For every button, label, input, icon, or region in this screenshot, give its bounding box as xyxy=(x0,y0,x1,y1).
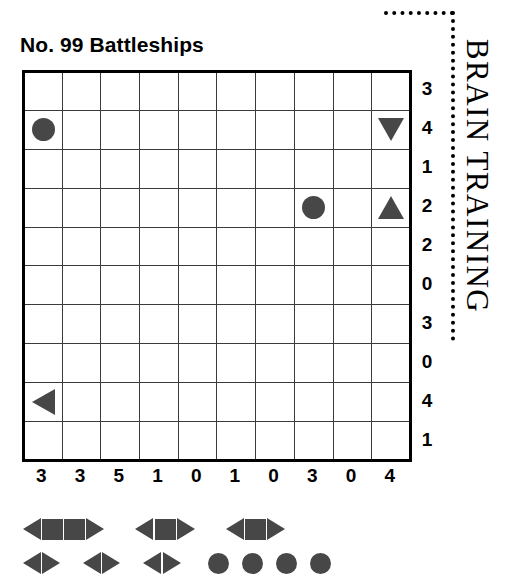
grid-cell[interactable] xyxy=(101,305,140,344)
grid-cell[interactable] xyxy=(101,266,140,305)
grid-cell[interactable] xyxy=(256,422,295,461)
grid-cell[interactable] xyxy=(178,344,217,383)
grid-cell[interactable] xyxy=(256,188,295,227)
grid-cell[interactable] xyxy=(217,72,256,111)
grid-cell[interactable] xyxy=(333,266,372,305)
grid-cell[interactable] xyxy=(217,266,256,305)
grid-cell[interactable] xyxy=(333,305,372,344)
grid-cell[interactable] xyxy=(101,227,140,266)
grid-cell[interactable] xyxy=(24,188,63,227)
grid-cell[interactable] xyxy=(217,149,256,188)
grid-cell[interactable] xyxy=(217,110,256,149)
grid-cell[interactable] xyxy=(294,149,333,188)
grid-cell[interactable] xyxy=(140,305,179,344)
grid-cell[interactable] xyxy=(140,422,179,461)
grid-cell[interactable] xyxy=(372,422,411,461)
grid-cell[interactable] xyxy=(217,188,256,227)
grid-cell[interactable] xyxy=(294,188,333,227)
grid-cell[interactable] xyxy=(217,383,256,422)
grid-cell[interactable] xyxy=(217,344,256,383)
grid-cell[interactable] xyxy=(62,72,101,111)
grid-cell[interactable] xyxy=(217,227,256,266)
grid-cell[interactable] xyxy=(256,110,295,149)
grid-cell[interactable] xyxy=(62,422,101,461)
grid-cell[interactable] xyxy=(62,149,101,188)
grid-cell[interactable] xyxy=(217,422,256,461)
grid-cell[interactable] xyxy=(178,188,217,227)
grid-cell[interactable] xyxy=(24,305,63,344)
grid-cell[interactable] xyxy=(256,266,295,305)
grid-cell[interactable] xyxy=(24,72,63,111)
grid-cell[interactable] xyxy=(101,188,140,227)
grid-cell[interactable] xyxy=(372,383,411,422)
grid-cell[interactable] xyxy=(333,383,372,422)
grid-cell[interactable] xyxy=(333,188,372,227)
grid-cell[interactable] xyxy=(140,266,179,305)
grid-cell[interactable] xyxy=(178,149,217,188)
grid-cell[interactable] xyxy=(256,72,295,111)
grid-cell[interactable] xyxy=(62,188,101,227)
grid-cell[interactable] xyxy=(62,383,101,422)
grid-cell[interactable] xyxy=(372,266,411,305)
grid-cell[interactable] xyxy=(101,383,140,422)
grid-cell[interactable] xyxy=(294,227,333,266)
grid-cell[interactable] xyxy=(178,110,217,149)
grid-cell[interactable] xyxy=(294,383,333,422)
grid-cell[interactable] xyxy=(24,422,63,461)
grid-cell[interactable] xyxy=(178,422,217,461)
grid-cell[interactable] xyxy=(24,383,63,422)
grid-cell[interactable] xyxy=(62,305,101,344)
grid-cell[interactable] xyxy=(217,305,256,344)
grid-cell[interactable] xyxy=(372,72,411,111)
grid-cell[interactable] xyxy=(140,149,179,188)
grid-cell[interactable] xyxy=(256,344,295,383)
grid-cell[interactable] xyxy=(24,266,63,305)
grid-cell[interactable] xyxy=(256,305,295,344)
grid-cell[interactable] xyxy=(178,383,217,422)
grid-cell[interactable] xyxy=(140,344,179,383)
grid-cell[interactable] xyxy=(140,383,179,422)
grid-cell[interactable] xyxy=(24,149,63,188)
grid-cell[interactable] xyxy=(62,344,101,383)
grid-cell[interactable] xyxy=(140,110,179,149)
grid-cell[interactable] xyxy=(101,72,140,111)
grid-cell[interactable] xyxy=(140,227,179,266)
grid-cell[interactable] xyxy=(333,149,372,188)
grid-cell[interactable] xyxy=(256,383,295,422)
grid-cell[interactable] xyxy=(62,266,101,305)
grid-cell[interactable] xyxy=(24,344,63,383)
grid-cell[interactable] xyxy=(24,110,63,149)
grid-cell[interactable] xyxy=(333,227,372,266)
grid-cell[interactable] xyxy=(178,227,217,266)
grid-cell[interactable] xyxy=(333,344,372,383)
grid-cell[interactable] xyxy=(294,72,333,111)
grid-cell[interactable] xyxy=(256,149,295,188)
grid-cell[interactable] xyxy=(101,149,140,188)
grid-cell[interactable] xyxy=(101,422,140,461)
grid-cell[interactable] xyxy=(62,227,101,266)
grid-cell[interactable] xyxy=(62,110,101,149)
grid-cell[interactable] xyxy=(101,110,140,149)
grid-cell[interactable] xyxy=(101,344,140,383)
grid-cell[interactable] xyxy=(294,110,333,149)
grid-cell[interactable] xyxy=(372,305,411,344)
grid-cell[interactable] xyxy=(372,110,411,149)
grid-cell[interactable] xyxy=(140,72,179,111)
grid-cell[interactable] xyxy=(333,72,372,111)
grid-cell[interactable] xyxy=(372,188,411,227)
grid-cell[interactable] xyxy=(178,266,217,305)
grid-cell[interactable] xyxy=(294,305,333,344)
grid-cell[interactable] xyxy=(178,305,217,344)
grid-cell[interactable] xyxy=(372,149,411,188)
grid-cell[interactable] xyxy=(24,227,63,266)
grid-cell[interactable] xyxy=(372,344,411,383)
grid-cell[interactable] xyxy=(178,72,217,111)
grid-cell[interactable] xyxy=(140,188,179,227)
grid-cell[interactable] xyxy=(256,227,295,266)
grid-cell[interactable] xyxy=(294,422,333,461)
grid-cell[interactable] xyxy=(333,422,372,461)
grid-cell[interactable] xyxy=(372,227,411,266)
grid-cell[interactable] xyxy=(294,266,333,305)
grid-cell[interactable] xyxy=(333,110,372,149)
grid-cell[interactable] xyxy=(294,344,333,383)
